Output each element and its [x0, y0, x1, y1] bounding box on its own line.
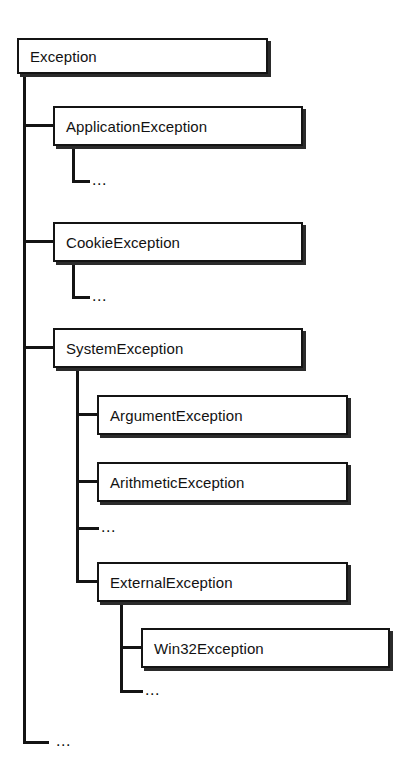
node-arithmetic-exception-label: ArithmeticException	[99, 475, 244, 490]
connector-system-exception-to-ellipsis	[76, 527, 99, 530]
connector-system-exception-trunk	[76, 368, 79, 583]
connector-system-exception-to-argument-exception	[76, 413, 99, 416]
node-cookie-exception-shadow-right	[303, 225, 306, 265]
node-exception[interactable]: Exception	[17, 38, 268, 74]
node-system-exception-shadow-bottom	[56, 368, 306, 371]
node-application-exception-shadow-right	[303, 109, 306, 149]
node-arithmetic-exception-shadow-right	[348, 465, 351, 505]
ellipsis-exception: ...	[56, 733, 71, 749]
connector-exception-trunk	[23, 74, 26, 744]
node-cookie-exception[interactable]: CookieException	[53, 222, 303, 262]
connector-application-exception-to-ellipsis	[72, 180, 90, 183]
connector-exception-to-system-exception	[23, 346, 55, 349]
node-argument-exception-label: ArgumentException	[99, 408, 243, 423]
ellipsis-cookie-exception: ...	[92, 288, 107, 304]
ellipsis-external-exception: ...	[145, 682, 160, 698]
node-application-exception-label: ApplicationException	[55, 119, 207, 134]
node-cookie-exception-label: CookieException	[55, 235, 180, 250]
node-cookie-exception-shadow-bottom	[56, 262, 306, 265]
node-application-exception[interactable]: ApplicationException	[53, 106, 303, 146]
exception-hierarchy-diagram: Exception ApplicationException CookieExc…	[0, 0, 414, 782]
node-win32-exception-shadow-right	[390, 631, 393, 671]
ellipsis-system-exception: ...	[101, 519, 116, 535]
node-arithmetic-exception-shadow-bottom	[100, 502, 351, 505]
connector-exception-to-cookie-exception	[23, 240, 55, 243]
node-external-exception-shadow-right	[348, 565, 351, 605]
connector-cookie-exception-to-ellipsis	[72, 296, 90, 299]
node-system-exception-shadow-right	[303, 331, 306, 371]
connector-exception-to-application-exception	[23, 124, 55, 127]
node-argument-exception-shadow-bottom	[100, 435, 351, 438]
connector-system-exception-to-external-exception	[76, 580, 99, 583]
node-exception-shadow-right	[268, 41, 271, 77]
connector-external-exception-to-ellipsis	[120, 690, 143, 693]
connector-system-exception-to-arithmetic-exception	[76, 480, 99, 483]
connector-exception-to-ellipsis	[23, 741, 49, 744]
node-application-exception-shadow-bottom	[56, 146, 306, 149]
node-exception-shadow-bottom	[20, 74, 271, 77]
connector-cookie-exception-trunk	[72, 262, 75, 299]
node-external-exception[interactable]: ExternalException	[97, 562, 348, 602]
node-argument-exception[interactable]: ArgumentException	[97, 395, 348, 435]
node-system-exception-label: SystemException	[55, 341, 183, 356]
node-system-exception[interactable]: SystemException	[53, 328, 303, 368]
node-win32-exception-shadow-bottom	[144, 668, 393, 671]
connector-application-exception-trunk	[72, 146, 75, 183]
node-arithmetic-exception[interactable]: ArithmeticException	[97, 462, 348, 502]
node-argument-exception-shadow-right	[348, 398, 351, 438]
ellipsis-application-exception: ...	[92, 172, 107, 188]
node-win32-exception[interactable]: Win32Exception	[141, 628, 390, 668]
node-external-exception-label: ExternalException	[99, 575, 233, 590]
node-win32-exception-label: Win32Exception	[143, 641, 264, 656]
node-external-exception-shadow-bottom	[100, 602, 351, 605]
node-exception-label: Exception	[19, 49, 97, 64]
connector-external-exception-to-win32-exception	[120, 646, 143, 649]
